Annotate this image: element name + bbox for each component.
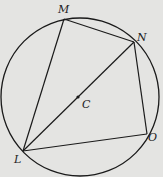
segment-no xyxy=(134,42,147,134)
circle xyxy=(1,18,159,176)
label-c: C xyxy=(82,98,91,111)
label-n: N xyxy=(136,31,147,44)
label-l: L xyxy=(13,153,21,166)
segment-ol xyxy=(23,134,147,151)
label-o: O xyxy=(148,131,157,144)
geometry-diagram: M N O L C xyxy=(0,0,163,177)
center-point xyxy=(76,95,79,98)
label-m: M xyxy=(57,3,70,16)
